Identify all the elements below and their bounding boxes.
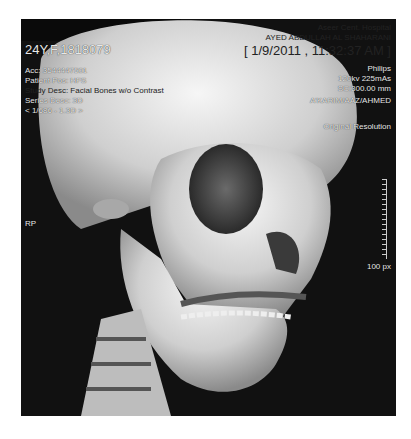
patient-info: 24Y,F,1818079 bbox=[25, 43, 111, 57]
referring-physician: AYED ABDULLAH AL SHAHARANI bbox=[266, 33, 391, 43]
manufacturer: Philips bbox=[367, 64, 391, 74]
accession-number: Acc: 3544447501 bbox=[25, 66, 87, 76]
series-navigator[interactable]: < 1/686 - 1.3D > bbox=[25, 106, 83, 116]
orientation-label: RP bbox=[25, 219, 36, 229]
study-datetime: [ 1/9/2011 , 11:32:37 AM ] bbox=[244, 44, 391, 58]
study-description: Study Desc: Facial Bones w/o Contrast bbox=[25, 86, 164, 96]
slice-info: SC:300.00 mm bbox=[338, 84, 391, 94]
institution-name: Aseer Cent. Hospital bbox=[318, 23, 391, 33]
scale-label: 100 px bbox=[367, 262, 391, 272]
patient-position: Patient Pos: HFS bbox=[25, 76, 86, 86]
technique: 120kv 225mAs bbox=[338, 74, 391, 84]
series-description: Series Desc: 3D bbox=[25, 96, 83, 106]
resolution-label: Original Resolution bbox=[323, 122, 391, 132]
ct-3d-viewport[interactable]: 24Y,F,1818079 Acc: 3544447501 Patient Po… bbox=[21, 19, 396, 416]
scale-ruler bbox=[380, 179, 387, 259]
operator-name: A'KARIM/AAZ/AHMED bbox=[310, 96, 391, 106]
